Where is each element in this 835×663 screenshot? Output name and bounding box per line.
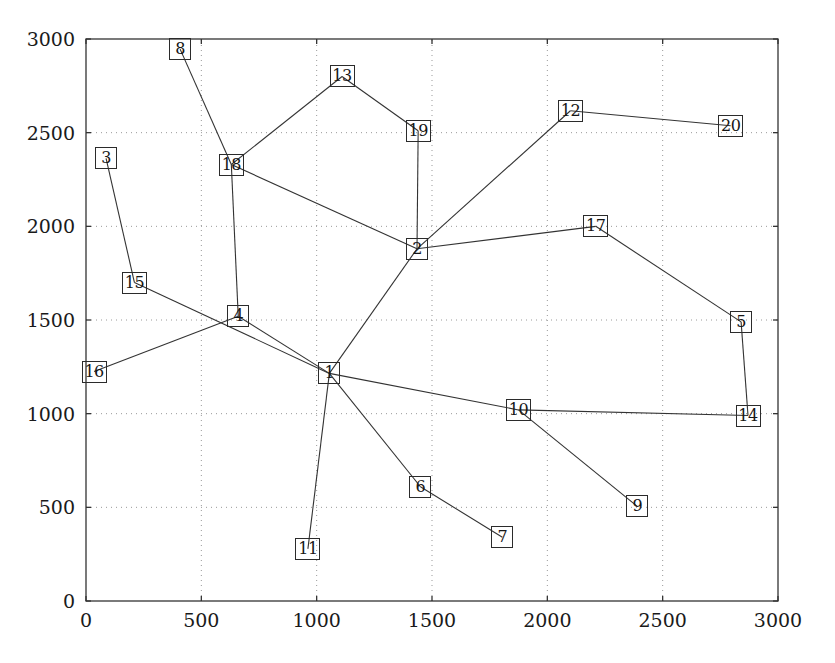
edge-line [106,158,134,282]
edge-line [596,226,741,322]
edge-line [180,49,231,164]
x-axis-tick-label: 1000 [292,611,340,630]
data-point-node-9[interactable]: 9 [626,495,648,517]
x-axis-tick-label: 500 [183,611,219,630]
edge-line [231,165,238,317]
edge-line [238,316,329,373]
plot-canvas [0,0,835,663]
data-point-node-7[interactable]: 7 [491,526,513,548]
node-label: 3 [101,150,111,166]
x-axis-tick-label: 2000 [523,611,571,630]
edge-line [417,226,596,248]
node-label: 9 [632,498,642,514]
node-label: 19 [408,123,427,139]
edge-line [417,131,418,249]
edge-line [741,322,748,416]
node-label: 6 [416,479,426,495]
x-axis-tick-label: 0 [80,611,92,630]
y-axis-tick-label: 3000 [27,30,75,49]
node-label: 5 [736,314,746,330]
edge-line [329,373,518,410]
node-label: 16 [84,364,103,380]
node-label: 20 [721,118,740,134]
data-point-node-16[interactable]: 16 [82,361,107,383]
node-label: 7 [498,529,508,545]
data-point-node-4[interactable]: 4 [227,305,249,327]
grid-lines [86,39,778,601]
edge-line [519,410,749,416]
data-point-node-5[interactable]: 5 [730,311,752,333]
data-point-node-6[interactable]: 6 [409,476,431,498]
data-point-node-20[interactable]: 20 [718,115,743,137]
edge-line [94,316,238,371]
edge-line [134,283,329,374]
x-axis-tick-label: 1500 [408,611,456,630]
node-label: 8 [175,41,185,57]
y-axis-tick-label: 0 [63,592,75,611]
edge-line [231,76,342,164]
node-label: 12 [561,103,580,119]
data-point-node-15[interactable]: 15 [122,272,147,294]
data-point-node-19[interactable]: 19 [406,120,431,142]
data-point-node-14[interactable]: 14 [736,405,761,427]
edge-line [329,249,417,374]
node-label: 2 [412,241,422,257]
edge-line [519,410,638,506]
node-label: 18 [222,157,241,173]
x-axis-tick-label: 2500 [638,611,686,630]
edge-line [417,111,570,249]
y-axis-tick-label: 500 [39,498,75,517]
scatter-plot-figure: 0500100015002000250030000500100015002000… [0,0,835,663]
y-axis-tick-label: 2500 [27,123,75,142]
data-point-node-11[interactable]: 11 [295,538,320,560]
node-label: 17 [586,218,605,234]
edge-line [231,165,417,249]
data-point-node-13[interactable]: 13 [330,65,355,87]
data-point-node-17[interactable]: 17 [583,215,608,237]
node-label: 13 [332,68,351,84]
node-label: 11 [298,541,317,557]
y-axis-tick-label: 1000 [27,404,75,423]
data-point-node-18[interactable]: 18 [219,154,244,176]
data-point-node-1[interactable]: 1 [318,362,340,384]
node-label: 15 [125,275,144,291]
data-point-node-12[interactable]: 12 [558,100,583,122]
y-axis-tick-label: 1500 [27,311,75,330]
data-point-node-2[interactable]: 2 [406,238,428,260]
y-axis-tick-label: 2000 [27,217,75,236]
data-point-node-8[interactable]: 8 [169,38,191,60]
edge-line [308,373,329,549]
edge-line [329,373,420,486]
edge-line [420,487,502,538]
node-label: 1 [325,365,335,381]
x-axis-tick-label: 3000 [754,611,802,630]
edge-line [570,111,730,126]
data-point-node-3[interactable]: 3 [95,147,117,169]
data-point-node-10[interactable]: 10 [506,399,531,421]
node-label: 14 [738,408,757,424]
node-label: 10 [509,402,528,418]
node-label: 4 [233,308,243,324]
